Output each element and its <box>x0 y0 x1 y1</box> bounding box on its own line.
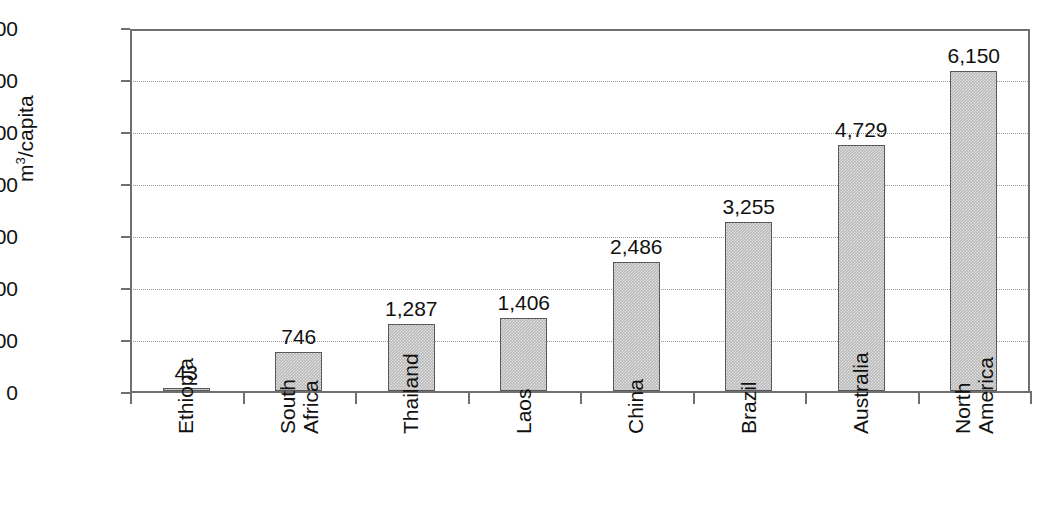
y-tick-mark <box>121 28 130 30</box>
y-tick-mark <box>121 80 130 82</box>
y-tick-label: 4,000 <box>0 173 18 197</box>
x-category-label-line: Brazil <box>737 330 760 434</box>
y-axis-line <box>130 29 132 393</box>
y-tick-mark <box>121 340 130 342</box>
x-category-label: Brazil <box>737 410 841 434</box>
x-category-label: SouthAfrica <box>276 410 380 434</box>
x-category-label-line: North <box>951 330 974 434</box>
x-category-label: Laos <box>512 410 616 434</box>
x-category-label-line: Thailand <box>399 330 422 434</box>
bar-value-label: 2,486 <box>610 235 663 259</box>
x-category-label: Australia <box>849 410 953 434</box>
x-category-label-line: South <box>276 330 299 434</box>
plot-area: 437461,2871,4062,4863,2554,7296,150 <box>130 29 1030 393</box>
y-tick-label: 2,000 <box>0 277 18 301</box>
x-tick-mark <box>243 393 245 404</box>
x-tick-mark <box>1030 393 1032 404</box>
y-tick-label: 3,000 <box>0 225 18 249</box>
bar-value-label: 3,255 <box>722 195 775 219</box>
x-tick-mark <box>468 393 470 404</box>
y-tick-mark <box>121 184 130 186</box>
x-category-label: NorthAmerica <box>951 410 1055 434</box>
x-category-label: China <box>624 410 728 434</box>
x-category-label: Thailand <box>399 410 503 434</box>
plot-top-border <box>130 29 1030 31</box>
x-category-label-line: Laos <box>512 330 535 434</box>
gridline <box>130 289 1030 290</box>
y-tick-label: 5,000 <box>0 121 18 145</box>
y-tick-label: 1,000 <box>0 329 18 353</box>
x-category-label-line: Ethiopia <box>174 330 197 434</box>
plot-right-border <box>1028 29 1030 393</box>
bar-value-label: 1,406 <box>497 291 550 315</box>
x-category-label-line: America <box>974 330 997 434</box>
x-tick-mark <box>580 393 582 404</box>
bar-chart: m3/capita 01,0002,0003,0004,0005,0006,00… <box>0 0 1060 517</box>
y-tick-label: 7,000 <box>0 17 18 41</box>
y-tick-label: 6,000 <box>0 69 18 93</box>
x-category-label-line: China <box>624 330 647 434</box>
gridline <box>130 81 1030 82</box>
x-tick-mark <box>918 393 920 404</box>
gridline <box>130 185 1030 186</box>
gridline <box>130 341 1030 342</box>
x-category-label: Ethiopia <box>174 410 278 434</box>
x-category-label-line: Australia <box>849 330 872 434</box>
gridline <box>130 237 1030 238</box>
y-tick-mark <box>121 392 130 394</box>
x-tick-mark <box>130 393 132 404</box>
y-tick-label: 0 <box>0 381 18 405</box>
x-tick-mark <box>693 393 695 404</box>
x-tick-mark <box>355 393 357 404</box>
x-tick-mark <box>805 393 807 404</box>
y-tick-mark <box>121 236 130 238</box>
x-category-label-line: Africa <box>299 330 322 434</box>
bar-value-label: 1,287 <box>385 297 438 321</box>
bar-value-label: 6,150 <box>947 44 1000 68</box>
y-tick-mark <box>121 132 130 134</box>
bar-value-label: 4,729 <box>835 118 888 142</box>
y-tick-mark <box>121 288 130 290</box>
gridline <box>130 133 1030 134</box>
